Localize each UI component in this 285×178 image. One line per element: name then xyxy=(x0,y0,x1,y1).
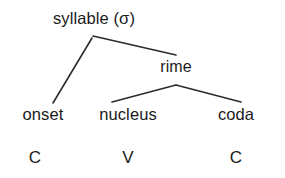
segment-coda-consonant: C xyxy=(230,149,242,166)
node-coda: coda xyxy=(218,106,254,123)
edge-root-to-onset xyxy=(53,38,92,103)
segment-nucleus-vowel: V xyxy=(122,149,133,166)
tree-branch-lines xyxy=(0,0,285,178)
edge-rime-to-nucleus xyxy=(112,85,176,102)
edge-rime-to-coda xyxy=(176,85,241,102)
node-syllable-root: syllable (σ) xyxy=(53,10,135,27)
node-onset: onset xyxy=(23,106,64,123)
syllable-tree-diagram: syllable (σ) rime onset nucleus coda C V… xyxy=(0,0,285,178)
node-nucleus: nucleus xyxy=(99,106,157,123)
segment-onset-consonant: C xyxy=(29,149,41,166)
edge-root-to-rime xyxy=(93,36,176,55)
node-rime: rime xyxy=(160,59,192,75)
